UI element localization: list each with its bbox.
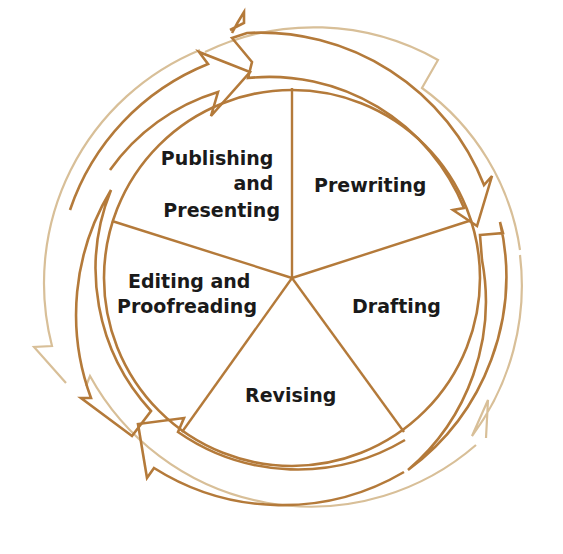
label-editing-proofreading: Editing and Proofreading xyxy=(117,270,257,317)
label-drafting: Drafting xyxy=(352,295,441,317)
arrow-publishing-to-prewriting xyxy=(70,52,250,210)
arrow-band-bottom xyxy=(138,418,405,505)
arrow-band-right xyxy=(408,222,506,470)
label-prewriting: Prewriting xyxy=(314,174,426,196)
label-publishing-presenting: Publishing and Presenting xyxy=(161,147,280,221)
writing-process-cycle-diagram: Prewriting Drafting Revising Editing and… xyxy=(0,0,563,554)
spoke-right xyxy=(292,220,472,278)
label-revising: Revising xyxy=(245,384,336,406)
middle-ring-arrows xyxy=(70,12,506,505)
outer-faded-ring xyxy=(34,27,522,506)
arrow-band-top xyxy=(232,33,492,226)
arrow-prewriting-to-drafting xyxy=(230,12,244,33)
